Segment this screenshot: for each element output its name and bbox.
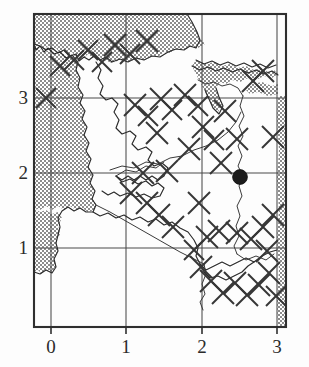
cross-mark (248, 274, 270, 296)
x-axis-tick-label-0: 0 (39, 337, 63, 356)
cross-mark (226, 128, 248, 150)
y-axis-tick-label-2: 2 (6, 163, 28, 182)
cross-mark (188, 192, 210, 214)
cross-mark (148, 204, 170, 226)
cross-mark (190, 256, 212, 278)
y-axis-tick-label-1: 1 (6, 238, 28, 257)
cross-mark (192, 116, 214, 138)
cross-mark (156, 160, 178, 182)
cross-mark (204, 130, 224, 150)
x-axis-tick-label-1: 1 (114, 337, 138, 356)
y-axis-tick-label-3: 3 (6, 88, 28, 107)
highlighted-location-marker[interactable] (233, 170, 248, 185)
x-axis-tick-label-3: 3 (265, 337, 289, 356)
map-plot (0, 0, 309, 367)
cross-mark (162, 216, 184, 238)
cross-mark (212, 282, 234, 304)
cross-mark (188, 96, 208, 116)
figure-container: 0 1 2 3 3 2 1 (0, 0, 309, 367)
cross-mark (124, 94, 146, 116)
cross-mark (252, 216, 274, 238)
cross-mark (120, 182, 142, 204)
x-axis-tick-label-2: 2 (190, 337, 214, 356)
cross-mark (174, 84, 196, 106)
cross-mark (184, 240, 204, 260)
cross-mark (236, 284, 258, 306)
cross-mark (210, 152, 232, 174)
cross-mark (162, 100, 182, 120)
